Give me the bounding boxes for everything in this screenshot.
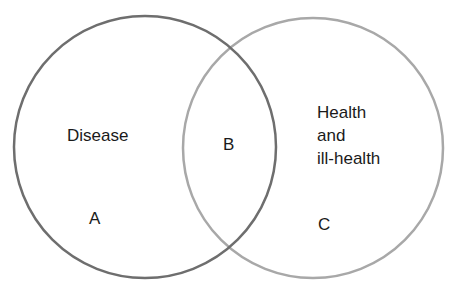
health-label-line1: Health bbox=[317, 103, 366, 123]
health-label-line3: ill-health bbox=[317, 149, 380, 169]
health-circle bbox=[183, 18, 443, 278]
region-c-label: C bbox=[318, 215, 330, 235]
disease-circle bbox=[14, 16, 276, 278]
region-a-label: A bbox=[89, 209, 100, 229]
health-label-line2: and bbox=[317, 126, 345, 146]
disease-label: Disease bbox=[67, 126, 128, 146]
region-b-label: B bbox=[223, 135, 234, 155]
